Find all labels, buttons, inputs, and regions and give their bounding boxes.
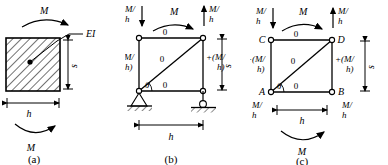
pin-support-ground-hatch	[127, 106, 152, 111]
post-left-force-numerator: −(M/	[125, 52, 136, 62]
force-bottom-right-numerator: M/	[341, 100, 353, 110]
node-label-a: A	[258, 86, 266, 97]
node-label-b: B	[338, 86, 344, 97]
force-bottom-left-denominator: h	[252, 110, 257, 120]
angle-label: θ	[277, 81, 282, 91]
moment-top-label: M	[39, 5, 49, 16]
angle-label: θ	[145, 80, 150, 90]
post-left-force-denominator: h)	[257, 64, 265, 74]
force-top-left-numerator: M/	[255, 6, 267, 16]
roller-support	[200, 101, 207, 108]
moment-arc-top	[153, 25, 193, 31]
dim-vertical-label: s	[222, 64, 233, 68]
node-label-c: C	[259, 34, 266, 45]
force-top-right-numerator: M/	[208, 4, 220, 14]
force-top-left-denominator: h	[125, 14, 130, 24]
moment-top-label: M	[298, 6, 308, 17]
solid-panel	[6, 38, 60, 91]
panel-b-caption: (b)	[165, 153, 178, 165]
force-top-right-denominator: h	[209, 14, 214, 24]
moment-arc-top	[22, 20, 68, 27]
panel-a-drawing: M EI s h M (a)	[0, 0, 125, 165]
panel-b: M M/ h M/ h 0 0 0 −(M/	[125, 0, 250, 165]
angle-arc	[149, 83, 152, 91]
post-right-force-numerator: +(M/	[335, 54, 356, 64]
post-left-force-numerator: −(M/	[250, 54, 267, 64]
joint-top-right	[200, 35, 205, 40]
moment-bottom-label: M	[26, 142, 36, 153]
dim-horizontal-label: h	[300, 115, 305, 126]
post-right-force-denominator: h)	[346, 64, 354, 74]
post-right-force-numerator: +(M/	[206, 52, 227, 62]
moment-arc-bottom	[15, 124, 55, 133]
chord-top-force-label: 0	[294, 29, 299, 39]
chord-top-force-label: 0	[163, 27, 168, 37]
joint-bottom-left	[268, 89, 273, 94]
figure-container: M EI s h M (a)	[0, 0, 388, 165]
force-top-left-denominator: h	[256, 16, 261, 26]
dim-vertical-label: s	[68, 64, 79, 68]
force-bottom-left-numerator: M/	[251, 100, 263, 110]
dim-horizontal-label: h	[169, 131, 174, 142]
diagonal-force-label: 0	[291, 56, 296, 66]
force-bottom-right-denominator: h	[342, 110, 347, 120]
stiffness-label: EI	[85, 28, 96, 39]
panel-c: M M/ h M/ h C D A B 0	[250, 0, 388, 165]
moment-top-label: M	[169, 6, 179, 17]
panel-c-drawing: M M/ h M/ h C D A B 0	[250, 0, 388, 165]
node-label-d: D	[336, 34, 345, 45]
force-top-right-numerator: M/	[337, 6, 349, 16]
panel-a-caption: (a)	[28, 153, 41, 165]
roller-support-ground-hatch	[191, 108, 216, 113]
joint-top-left	[268, 37, 273, 42]
moment-arc-top	[282, 24, 322, 31]
force-top-right-denominator: h	[338, 16, 343, 26]
panel-c-caption: (c)	[296, 155, 309, 165]
moment-arc-bottom	[281, 131, 324, 140]
dim-horizontal-label: h	[27, 108, 32, 119]
chord-bottom-force-label: 0	[163, 80, 168, 90]
joint-top-right	[329, 37, 334, 42]
pin-support	[131, 93, 147, 106]
dim-vertical-label: s	[365, 65, 376, 69]
panel-b-drawing: M M/ h M/ h 0 0 0 −(M/	[125, 0, 250, 165]
force-top-left-numerator: M/	[125, 4, 136, 14]
angle-arc	[281, 84, 284, 92]
panel-a: M EI s h M (a)	[0, 0, 125, 165]
joint-top-left	[136, 35, 141, 40]
chord-bottom-force-label: 0	[294, 81, 299, 91]
diagonal-force-label: 0	[160, 54, 165, 64]
post-left-force-denominator: h)	[125, 62, 133, 72]
joint-bottom-right	[329, 89, 334, 94]
